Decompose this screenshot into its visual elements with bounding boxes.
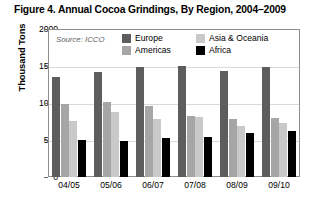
- legend-swatch-europe-icon: [122, 34, 131, 43]
- bar-asia: [195, 117, 203, 177]
- legend-entry-asia: Asia & Oceania: [196, 34, 268, 43]
- x-tick-label: 04/05: [48, 181, 90, 190]
- bar-europe: [178, 66, 186, 177]
- bar-europe: [94, 72, 102, 177]
- x-tick-label: 09/10: [258, 181, 300, 190]
- figure-title: Figure 4. Annual Cocoa Grindings, By Reg…: [14, 3, 304, 16]
- bar-europe: [220, 71, 228, 177]
- legend-label-americas: Americas: [135, 46, 171, 55]
- legend-swatch-asia-icon: [196, 34, 205, 43]
- bar-asia: [153, 119, 161, 177]
- legend-entry-africa: Africa: [196, 46, 231, 55]
- legend-source-note: Source: ICCO: [56, 35, 105, 44]
- x-tick-label: 08/09: [216, 181, 258, 190]
- legend-label-africa: Africa: [209, 46, 231, 55]
- bar-africa: [246, 133, 254, 177]
- bar-americas: [103, 102, 111, 177]
- x-tick-label: 06/07: [132, 181, 174, 190]
- bar-europe: [136, 67, 144, 177]
- bar-asia: [111, 112, 119, 177]
- x-tick-label: 05/06: [90, 181, 132, 190]
- y-tick-mark: [44, 177, 48, 178]
- legend-label-asia: Asia & Oceania: [209, 34, 268, 43]
- y-axis-title: Thousand Tons: [16, 3, 27, 113]
- bar-africa: [78, 140, 86, 177]
- bar-africa: [288, 131, 296, 177]
- bar-americas: [61, 104, 69, 177]
- figure-container: Figure 4. Annual Cocoa Grindings, By Reg…: [0, 0, 311, 205]
- x-tick-label: 07/08: [174, 181, 216, 190]
- legend-swatch-africa-icon: [196, 46, 205, 55]
- legend-entry-europe: Europe: [122, 34, 163, 43]
- legend-swatch-americas-icon: [122, 46, 131, 55]
- bar-asia: [279, 123, 287, 177]
- bar-africa: [204, 137, 212, 177]
- bar-asia: [69, 121, 77, 177]
- bar-europe: [52, 77, 60, 177]
- legend-label-europe: Europe: [135, 34, 163, 43]
- bar-africa: [162, 138, 170, 177]
- bar-europe: [262, 67, 270, 177]
- legend-entry-americas: Americas: [122, 46, 171, 55]
- bar-africa: [120, 141, 128, 177]
- bar-americas: [271, 118, 279, 177]
- bar-americas: [187, 116, 195, 177]
- bar-americas: [229, 119, 237, 177]
- bar-asia: [237, 126, 245, 177]
- chart-legend: Source: ICCO Europe Americas Asia & Ocea…: [54, 33, 292, 58]
- bar-americas: [145, 106, 153, 177]
